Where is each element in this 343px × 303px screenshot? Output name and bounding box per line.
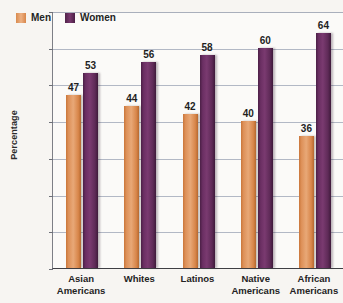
x-axis-tick-labels: AsianAmericansWhitesLatinosNativeAmerica… — [52, 273, 343, 303]
bar-value-label: 56 — [143, 49, 154, 60]
bar-slot: 44 — [124, 11, 139, 268]
bar-group: 4753 — [66, 12, 98, 268]
men-color-swatch — [16, 13, 26, 23]
x-axis-label: AsianAmericans — [52, 273, 110, 296]
chart-legend: MenWomen — [16, 12, 116, 23]
legend-item-men[interactable]: Men — [16, 12, 51, 23]
bar-value-label: 53 — [85, 60, 96, 71]
x-axis-label-line: Americans — [285, 285, 343, 297]
x-axis-label-line: Native — [227, 273, 285, 285]
bar-slot: 47 — [66, 11, 81, 268]
bar-women[interactable] — [200, 55, 215, 268]
bar-slot: 42 — [183, 11, 198, 268]
bar-value-label: 60 — [260, 35, 271, 46]
bar-slot: 40 — [241, 11, 256, 268]
bar-slot: 56 — [141, 11, 156, 268]
bar-men[interactable] — [66, 95, 81, 268]
x-axis-label-line: Americans — [52, 285, 110, 297]
legend-label: Women — [80, 12, 116, 23]
bar-slot: 60 — [258, 11, 273, 268]
plot-area: 47534456425840603664 — [52, 12, 343, 269]
x-axis-label: Latinos — [168, 273, 226, 285]
bar-slot: 64 — [316, 11, 331, 268]
bar-women[interactable] — [83, 73, 98, 268]
women-color-swatch — [65, 13, 75, 23]
bar-group: 4456 — [124, 12, 156, 268]
bar-slot: 53 — [83, 11, 98, 268]
bar-chart: Percentage MenWomen 47534456425840603664… — [0, 0, 343, 303]
bar-group: 3664 — [299, 12, 331, 268]
bar-value-label: 47 — [68, 82, 79, 93]
bar-slot: 36 — [299, 11, 314, 268]
bar-group: 4258 — [183, 12, 215, 268]
legend-label: Men — [31, 12, 51, 23]
bar-men[interactable] — [241, 121, 256, 268]
bar-value-label: 44 — [126, 93, 137, 104]
x-axis-label-line: African — [285, 273, 343, 285]
bar-women[interactable] — [141, 62, 156, 268]
x-axis-label-line: Asian — [52, 273, 110, 285]
x-axis-label-line: Latinos — [168, 273, 226, 285]
legend-item-women[interactable]: Women — [65, 12, 116, 23]
x-axis-label-line: Whites — [110, 273, 168, 285]
x-axis-label-line: Americans — [227, 285, 285, 297]
bar-women[interactable] — [316, 33, 331, 268]
y-axis-tick-mark — [49, 269, 53, 270]
bar-men[interactable] — [124, 106, 139, 268]
bar-group: 4060 — [241, 12, 273, 268]
bar-value-label: 36 — [301, 123, 312, 134]
y-axis-title: Percentage — [9, 90, 19, 180]
bar-value-label: 58 — [201, 42, 212, 53]
bar-men[interactable] — [299, 136, 314, 268]
bar-value-label: 64 — [318, 20, 329, 31]
bar-women[interactable] — [258, 48, 273, 268]
bar-slot: 58 — [200, 11, 215, 268]
x-axis-label: AfricanAmericans — [285, 273, 343, 296]
x-axis-label: NativeAmericans — [227, 273, 285, 296]
bars-layer: 47534456425840603664 — [53, 12, 343, 268]
x-axis-label: Whites — [110, 273, 168, 285]
bar-men[interactable] — [183, 114, 198, 268]
bar-value-label: 40 — [243, 108, 254, 119]
bar-value-label: 42 — [184, 101, 195, 112]
